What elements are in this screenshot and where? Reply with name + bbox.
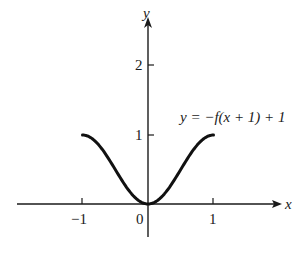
y-tick-label-2: 2 bbox=[135, 57, 143, 73]
x-axis-label: x bbox=[284, 196, 292, 212]
x-tick-label-neg1: −1 bbox=[71, 211, 87, 227]
equation-text: y = −f(x + 1) + 1 bbox=[178, 109, 285, 126]
x-tick-label-0: 0 bbox=[136, 211, 144, 227]
x-tick-label-1: 1 bbox=[209, 211, 217, 227]
y-axis-label: y bbox=[141, 5, 150, 21]
function-graph: x y −1 0 1 1 2 y = −f(x + 1) + 1 bbox=[0, 0, 306, 255]
y-tick-label-1: 1 bbox=[135, 127, 143, 143]
equation-label: y = −f(x + 1) + 1 bbox=[178, 109, 285, 126]
